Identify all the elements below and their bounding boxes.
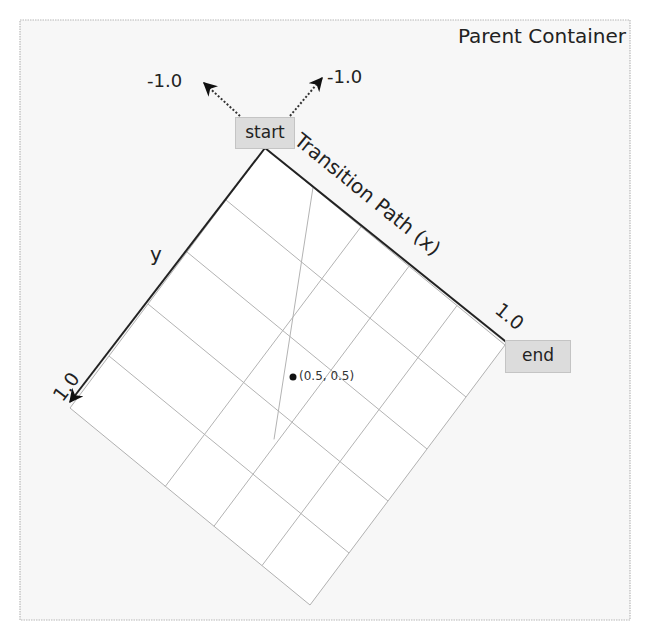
parent-container-title: Parent Container: [458, 24, 626, 48]
diagram-canvas: Parent Container start end -1.0 -1.0 Tra…: [0, 0, 650, 636]
y-axis-label: y: [150, 242, 162, 266]
neg-right-value: -1.0: [327, 66, 362, 87]
start-node[interactable]: start: [235, 117, 295, 149]
sample-point: [290, 374, 297, 381]
end-node[interactable]: end: [505, 340, 571, 373]
diagram-svg: [0, 0, 650, 636]
neg-left-value: -1.0: [147, 70, 182, 91]
sample-point-label: (0.5, 0.5): [299, 369, 354, 383]
